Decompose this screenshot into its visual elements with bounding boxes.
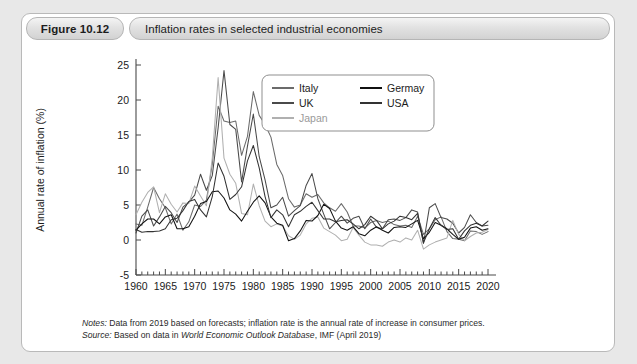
notes-label: Notes: <box>82 318 107 328</box>
figure-title-label: Inflation rates in selected industrial e… <box>145 23 383 35</box>
svg-text:2015: 2015 <box>447 280 471 292</box>
y-axis-ticks: -50510152025 <box>117 59 141 281</box>
svg-text:1975: 1975 <box>212 280 236 292</box>
x-axis-ticks: 1960196519701975198019851990199520002005… <box>124 269 500 292</box>
svg-text:Japan: Japan <box>299 112 328 124</box>
figure-notes: Notes: Data from 2019 based on forecasts… <box>82 317 602 341</box>
svg-text:1970: 1970 <box>183 280 207 292</box>
svg-text:2010: 2010 <box>418 280 442 292</box>
source-publication: World Economic Outlook Database <box>181 330 315 340</box>
svg-text:UK: UK <box>299 97 314 109</box>
svg-text:25: 25 <box>117 59 129 71</box>
svg-text:2000: 2000 <box>359 280 383 292</box>
svg-text:1985: 1985 <box>271 280 295 292</box>
svg-text:1980: 1980 <box>242 280 266 292</box>
figure-header: Figure 10.12 Inflation rates in selected… <box>22 14 614 43</box>
svg-text:2005: 2005 <box>388 280 412 292</box>
svg-text:10: 10 <box>117 164 129 176</box>
notes-line: Notes: Data from 2019 based on forecasts… <box>82 317 602 329</box>
notes-text: Data from 2019 based on forecasts; infla… <box>107 318 485 328</box>
chart-legend: ItalyUKJapanGermayUSA <box>262 75 434 131</box>
figure-card: Figure 10.12 Inflation rates in selected… <box>21 13 615 352</box>
svg-text:1965: 1965 <box>154 280 178 292</box>
svg-text:2020: 2020 <box>476 280 500 292</box>
svg-text:20: 20 <box>117 94 129 106</box>
svg-text:Annual rate of inflation (%): Annual rate of inflation (%) <box>34 108 46 232</box>
svg-text:-5: -5 <box>120 269 129 281</box>
svg-text:1995: 1995 <box>330 280 354 292</box>
figure-number-label: Figure 10.12 <box>41 23 109 35</box>
figure-number-badge: Figure 10.12 <box>26 17 124 40</box>
source-label: Source: <box>82 330 112 340</box>
source-text-pre: Based on data in <box>112 330 181 340</box>
svg-text:5: 5 <box>123 199 129 211</box>
svg-text:USA: USA <box>387 97 409 109</box>
y-axis-title: Annual rate of inflation (%) <box>34 108 46 232</box>
svg-text:0: 0 <box>123 234 129 246</box>
svg-text:Germay: Germay <box>387 82 425 94</box>
inflation-line-chart: Annual rate of inflation (%) -5051015202… <box>22 43 615 318</box>
svg-text:15: 15 <box>117 129 129 141</box>
chart-plot-region: Annual rate of inflation (%) -5051015202… <box>22 43 615 318</box>
source-line: Source: Based on data in World Economic … <box>82 329 602 341</box>
svg-text:1990: 1990 <box>300 280 324 292</box>
source-text-post: , IMF (April 2019) <box>315 330 381 340</box>
svg-text:1960: 1960 <box>124 280 148 292</box>
svg-text:Italy: Italy <box>299 82 319 94</box>
figure-title-badge: Inflation rates in selected industrial e… <box>129 17 610 40</box>
